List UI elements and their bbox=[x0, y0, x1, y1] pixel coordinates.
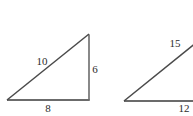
label-right-hypotenuse: 15 bbox=[170, 38, 181, 49]
triangle-left bbox=[7, 34, 90, 100]
triangle-left-hypotenuse-edge bbox=[7, 34, 89, 100]
triangle-right-hypotenuse-edge bbox=[124, 34, 193, 101]
label-left-hypotenuse: 10 bbox=[37, 56, 48, 67]
label-left-base: 8 bbox=[45, 103, 51, 114]
label-left-vertical: 6 bbox=[92, 64, 98, 75]
geometry-figure: 10 6 8 15 12 bbox=[0, 0, 193, 116]
triangle-right bbox=[124, 34, 193, 101]
triangles-canvas bbox=[0, 0, 193, 116]
label-right-base: 12 bbox=[179, 103, 190, 114]
